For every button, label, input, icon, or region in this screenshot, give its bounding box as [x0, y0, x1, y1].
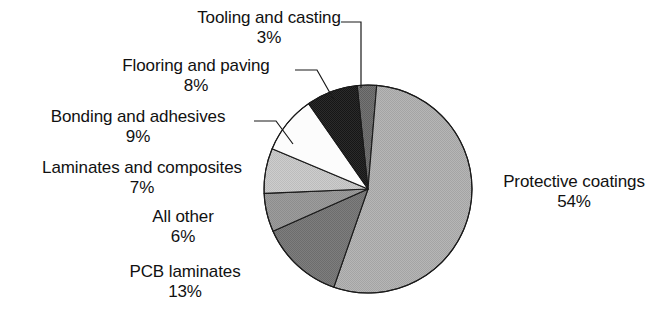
- slice-label-title: Laminates and composites: [20, 158, 264, 178]
- slice-label-title: Bonding and adhesives: [30, 107, 246, 127]
- slice-label-value: 8%: [96, 76, 296, 96]
- slice-label-title: Tooling and casting: [164, 8, 374, 28]
- slice-label-value: 3%: [164, 28, 374, 48]
- slice-label-laminates-and-composites: Laminates and composites 7%: [20, 158, 264, 198]
- slice-label-value: 7%: [20, 178, 264, 198]
- slice-label-protective-coatings: Protective coatings 54%: [484, 172, 664, 212]
- slice-label-value: 9%: [30, 127, 246, 147]
- slice-label-value: 13%: [104, 282, 266, 302]
- slice-label-title: Flooring and paving: [96, 56, 296, 76]
- slice-label-title: Protective coatings: [484, 172, 664, 192]
- slice-label-all-other: All other 6%: [110, 207, 256, 247]
- slice-label-flooring-and-paving: Flooring and paving 8%: [96, 56, 296, 96]
- slice-label-tooling-and-casting: Tooling and casting 3%: [164, 8, 374, 48]
- slice-label-title: All other: [110, 207, 256, 227]
- slice-label-bonding-and-adhesives: Bonding and adhesives 9%: [30, 107, 246, 147]
- slice-label-value: 54%: [484, 192, 664, 212]
- pie-chart-figure: Tooling and casting 3%Protective coating…: [0, 0, 668, 331]
- pie-slices-group: Tooling and casting 3%Protective coating…: [264, 85, 472, 293]
- slice-label-pcb-laminates: PCB laminates 13%: [104, 262, 266, 302]
- slice-label-title: PCB laminates: [104, 262, 266, 282]
- slice-label-value: 6%: [110, 227, 256, 247]
